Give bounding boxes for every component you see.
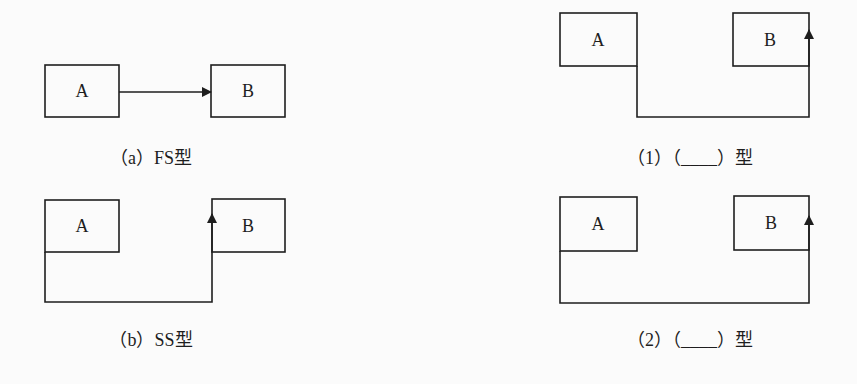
task-b-label: B — [242, 81, 254, 101]
dependency-arrow — [637, 30, 809, 117]
task-a-label: A — [76, 81, 89, 101]
caption-2: （2）（____）型 — [627, 328, 753, 352]
panel-1: A B — [560, 13, 809, 117]
task-a-label: A — [592, 30, 605, 50]
task-a-label: A — [592, 214, 605, 234]
panel-2: A B — [560, 196, 809, 303]
dependency-diagram: A B A B A B A B — [0, 0, 857, 384]
caption-a: （a）FS型 — [110, 146, 192, 170]
task-b-label: B — [764, 30, 776, 50]
caption-b: （b）SS型 — [109, 328, 192, 352]
task-b-label: B — [765, 213, 777, 233]
dependency-arrow — [45, 214, 212, 302]
task-b-label: B — [242, 216, 254, 236]
panel-b-ss: A B — [45, 199, 285, 302]
caption-1: （1）（____）型 — [627, 146, 753, 170]
panel-a-fs: A B — [45, 65, 285, 117]
task-a-label: A — [76, 216, 89, 236]
